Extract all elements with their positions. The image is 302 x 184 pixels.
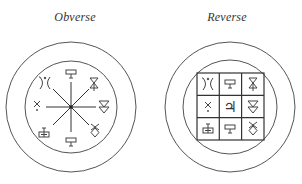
reverse-cell-3-3: [249, 122, 257, 135]
seal-diagram: ♃: [0, 0, 302, 184]
reverse-cell-1-3: [249, 78, 257, 91]
reverse-cell-1-2: [225, 80, 235, 88]
obverse-symbol-s: [66, 138, 76, 146]
reverse-cell-3-1: [203, 124, 213, 133]
reverse-cell-1-1: [202, 78, 213, 90]
reverse-seal: ♃: [165, 42, 295, 172]
obverse-symbol-e: [99, 101, 109, 113]
obverse-symbol-ne: [90, 78, 98, 91]
obverse-symbol-n: [66, 70, 76, 78]
obverse-symbol-w: [34, 101, 40, 111]
obverse-seal: [6, 42, 136, 172]
obverse-symbol-se: [91, 124, 99, 137]
reverse-cell-2-3: [248, 101, 258, 113]
reverse-cell-3-2: [225, 125, 235, 133]
obverse-center-dot: [69, 105, 73, 109]
reverse-cell-2-1: [205, 102, 211, 112]
reverse-cell-2-2: ♃: [223, 98, 236, 116]
obverse-symbol-nw: [39, 77, 50, 89]
obverse-symbol-sw: [39, 128, 49, 137]
